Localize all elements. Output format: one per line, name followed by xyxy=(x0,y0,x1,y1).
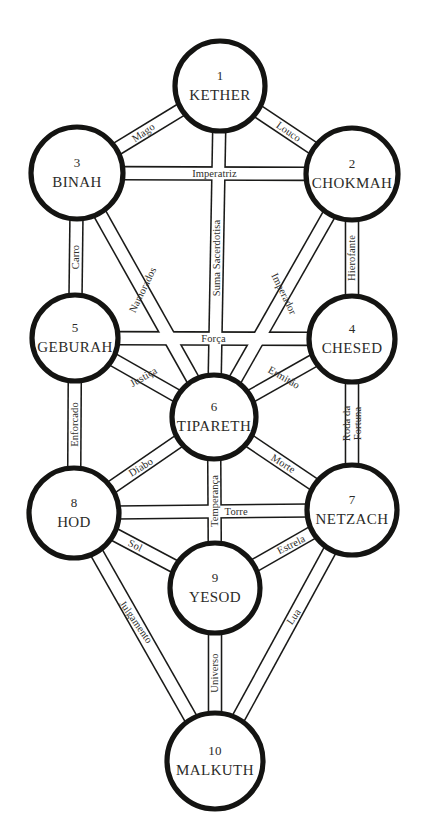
path-label-torre: Torre xyxy=(225,506,248,517)
tree-of-life-canvas: 1KETHER2CHOKMAH3BINAH4CHESED5GEBURAH6TIP… xyxy=(0,0,426,833)
path-label-text: Suma Sacerdotisa xyxy=(211,219,222,296)
path-label-text: Enforcado xyxy=(69,402,80,447)
path-label-text: Hierofante xyxy=(346,235,357,281)
path-label-julgamento: Julgamento xyxy=(117,599,154,646)
sephira-number-malkuth: 10 xyxy=(208,743,221,758)
sephira-circle-binah[interactable] xyxy=(31,127,123,219)
path-label-enforcado: Enforcado xyxy=(69,402,80,447)
sephira-name-malkuth: MALKUTH xyxy=(176,762,254,778)
sephira-circle-chokmah[interactable] xyxy=(306,128,398,220)
path-label-text: Julgamento xyxy=(117,599,154,646)
path-label-carro: Carro xyxy=(70,245,81,269)
path-label-hierofante: Hierofante xyxy=(346,235,357,281)
path-label-text: Universo xyxy=(209,653,220,692)
sephira-number-netzach: 7 xyxy=(349,492,356,507)
sephira-name-hod: HOD xyxy=(57,514,91,530)
path-label-text: Fortuna xyxy=(352,407,363,441)
path-label-text: Torre xyxy=(225,506,248,517)
sephira-number-yesod: 9 xyxy=(212,570,219,585)
sephira-kether[interactable]: 1KETHER xyxy=(175,41,265,131)
sephira-circle-hod[interactable] xyxy=(29,468,119,558)
sephira-name-yesod: YESOD xyxy=(189,589,241,605)
path-label-text: Carro xyxy=(70,245,81,269)
sephira-number-hod: 8 xyxy=(71,495,78,510)
sephira-chokmah[interactable]: 2CHOKMAH xyxy=(306,128,398,220)
path-band-fill-sol xyxy=(112,533,178,568)
sephira-circle-kether[interactable] xyxy=(175,41,265,131)
sephira-number-geburah: 5 xyxy=(72,320,79,335)
path-label-suma-sacerdotisa: Suma Sacerdotisa xyxy=(211,219,222,296)
sephira-name-tiphareth: TIPARETH xyxy=(177,418,251,434)
sephira-circle-chesed[interactable] xyxy=(309,296,395,382)
sephira-name-chokmah: CHOKMAH xyxy=(312,175,392,191)
sephira-number-chesed: 4 xyxy=(349,321,356,336)
sephira-circle-tiphareth[interactable] xyxy=(172,375,256,459)
sephira-number-binah: 3 xyxy=(74,155,81,170)
path-label-text: Roda da xyxy=(341,406,352,442)
sephira-hod[interactable]: 8HOD xyxy=(29,468,119,558)
sephira-name-netzach: NETZACH xyxy=(316,511,389,527)
sephira-name-kether: KETHER xyxy=(189,87,251,103)
path-label-roda-da-fortuna: Roda daFortuna xyxy=(341,406,364,442)
path-label-text: Força xyxy=(201,333,226,344)
sephira-name-geburah: GEBURAH xyxy=(37,339,112,355)
sephira-circle-netzach[interactable] xyxy=(307,465,397,555)
sephira-chesed[interactable]: 4CHESED xyxy=(309,296,395,382)
sephira-number-chokmah: 2 xyxy=(349,156,356,171)
path-label-forca: Força xyxy=(201,333,226,344)
sephira-name-chesed: CHESED xyxy=(322,340,383,356)
sephira-yesod[interactable]: 9YESOD xyxy=(170,543,260,633)
sephira-name-binah: BINAH xyxy=(52,174,102,190)
sephira-netzach[interactable]: 7NETZACH xyxy=(307,465,397,555)
sephira-circle-malkuth[interactable] xyxy=(167,713,263,809)
sephira-geburah[interactable]: 5GEBURAH xyxy=(32,295,118,381)
sephira-number-tiphareth: 6 xyxy=(211,399,218,414)
sephira-number-kether: 1 xyxy=(217,68,224,83)
path-label-text: Imperatriz xyxy=(192,168,237,179)
sephira-binah[interactable]: 3BINAH xyxy=(31,127,123,219)
sephira-malkuth[interactable]: 10MALKUTH xyxy=(167,713,263,809)
sephira-circle-yesod[interactable] xyxy=(170,543,260,633)
path-label-imperatriz: Imperatriz xyxy=(192,168,237,179)
path-label-text: Temperança xyxy=(209,475,220,527)
path-label-universo: Universo xyxy=(209,653,220,692)
sephira-tiphareth[interactable]: 6TIPARETH xyxy=(172,375,256,459)
path-label-temperanca: Temperança xyxy=(209,475,220,527)
tree-of-life-diagram: 1KETHER2CHOKMAH3BINAH4CHESED5GEBURAH6TIP… xyxy=(0,0,426,833)
sephira-circle-geburah[interactable] xyxy=(32,295,118,381)
